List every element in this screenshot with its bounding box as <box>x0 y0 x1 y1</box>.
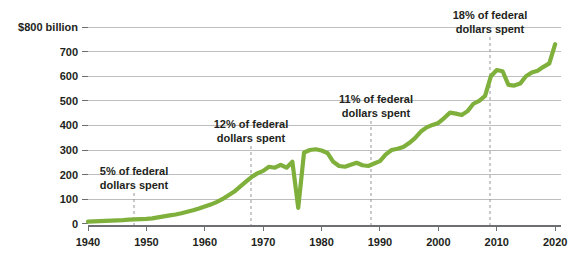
xtick-label-1950: 1950 <box>134 236 158 248</box>
annotation-12-percent-line2: dollars spent <box>217 132 286 144</box>
xtick-label-1940: 1940 <box>76 236 100 248</box>
annotation-18-percent-line1: 18% of federal <box>453 9 528 21</box>
xtick-label-1960: 1960 <box>193 236 217 248</box>
y-tick-marks <box>82 27 88 224</box>
xtick-label-1980: 1980 <box>309 236 333 248</box>
xtick-label-1970: 1970 <box>251 236 275 248</box>
annotation-leaders <box>134 37 490 226</box>
spending-line-series <box>88 44 555 221</box>
x-tick-marks <box>88 226 555 231</box>
ytick-label-300: 300 <box>60 144 78 156</box>
ytick-label-600: 600 <box>60 70 78 82</box>
xtick-label-1990: 1990 <box>368 236 392 248</box>
x-axis-tick-labels: 194019501960197019801990200020102020 <box>76 236 568 248</box>
annotation-5-percent-line1: 5% of federal <box>100 165 168 177</box>
xtick-label-2000: 2000 <box>426 236 450 248</box>
annotation-11-percent-line2: dollars spent <box>342 107 411 119</box>
annotation-5-percent: 5% of federal dollars spent <box>100 165 169 191</box>
ytick-label-400: 400 <box>60 119 78 131</box>
federal-spending-line-chart: $800 billion 700 600 500 400 300 200 100… <box>0 0 571 261</box>
annotation-18-percent-line2: dollars spent <box>456 23 525 35</box>
annotation-12-percent-line1: 12% of federal <box>214 118 289 130</box>
ytick-label-0: 0 <box>72 218 78 230</box>
annotation-11-percent-line1: 11% of federal <box>339 93 413 105</box>
xtick-label-2020: 2020 <box>543 236 567 248</box>
annotation-11-percent: 11% of federal dollars spent <box>339 93 413 119</box>
chart-canvas: $800 billion 700 600 500 400 300 200 100… <box>0 0 571 261</box>
ytick-label-200: 200 <box>60 169 78 181</box>
annotation-12-percent: 12% of federal dollars spent <box>214 118 289 144</box>
ytick-label-700: 700 <box>60 46 78 58</box>
annotation-5-percent-line2: dollars spent <box>100 179 169 191</box>
annotation-18-percent: 18% of federal dollars spent <box>453 9 528 35</box>
xtick-label-2010: 2010 <box>485 236 509 248</box>
ytick-label-500: 500 <box>60 95 78 107</box>
ytick-label-800: $800 billion <box>18 21 78 33</box>
ytick-label-100: 100 <box>60 193 78 205</box>
